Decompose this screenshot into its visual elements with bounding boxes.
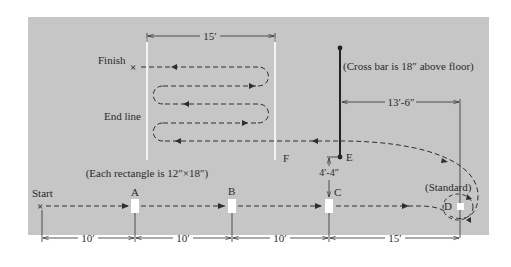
point-label-A: A — [131, 186, 139, 198]
point-label-F: F — [283, 152, 289, 164]
dimension-label-15ft: 15′ — [203, 30, 216, 42]
dimension-label-start-a: 10′ — [81, 232, 94, 244]
point-label-B: B — [228, 185, 235, 197]
cross-bar-note: (Cross bar is 18″ above floor) — [343, 60, 474, 73]
point-label-E: E — [346, 151, 353, 163]
point-label-C: C — [334, 186, 341, 198]
diagram-background — [28, 17, 489, 235]
start-label: Start — [32, 187, 53, 199]
end-line-label: End line — [104, 110, 141, 122]
agility-course-diagram: 15′ Finish × End line (Cross bar is 18″ — [0, 0, 511, 267]
dimension-label-b-c: 10′ — [273, 232, 286, 244]
dimension-label-4ft4in: 4′-4″ — [319, 167, 339, 178]
dimension-label-c-d: 15′ — [388, 232, 401, 244]
marker-rectangle-A — [131, 199, 139, 213]
dimension-label-13ft6in: 13′-6″ — [387, 96, 414, 108]
standard-marker-D — [457, 203, 464, 210]
rectangle-note: (Each rectangle is 12″×18″) — [86, 167, 209, 180]
point-label-D: D — [444, 200, 452, 212]
finish-label: Finish — [98, 54, 126, 66]
finish-x-icon: × — [130, 61, 136, 73]
cross-bar-top-dot — [338, 46, 343, 51]
marker-rectangle-B — [228, 199, 236, 213]
dimension-label-a-b: 10′ — [176, 232, 189, 244]
marker-rectangle-C — [325, 199, 333, 213]
standard-label: (Standard) — [425, 181, 472, 194]
